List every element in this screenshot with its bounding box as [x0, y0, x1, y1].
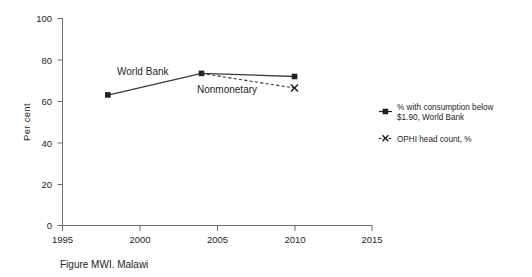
legend-marker-world-bank [379, 109, 392, 115]
y-tick-label-40: 40 [41, 138, 52, 149]
chart-legend: % with consumption below $1.90, World Ba… [379, 103, 494, 144]
y-axis-ticks [58, 19, 63, 226]
y-tick-label-80: 80 [41, 55, 52, 66]
x-tick-label-2005: 2005 [207, 234, 228, 245]
x-tick-label-2000: 2000 [129, 234, 150, 245]
y-tick-label-20: 20 [41, 179, 52, 190]
y-tick-label-100: 100 [36, 13, 52, 24]
x-tick-label-2015: 2015 [361, 234, 382, 245]
x-tick-label-1995: 1995 [52, 234, 73, 245]
figure-caption: Figure MWI. Malawi [60, 259, 148, 270]
y-tick-label-0: 0 [47, 220, 52, 231]
series-markers-ophi [291, 85, 298, 92]
y-tick-label-60: 60 [41, 96, 52, 107]
legend-label-world-bank-line2: $1.90, World Bank [397, 113, 465, 122]
legend-label-world-bank-line1: % with consumption below [397, 103, 494, 112]
x-axis-ticks [63, 226, 373, 232]
line-chart: 100 80 60 40 20 0 Per cent 1995 2000 200… [0, 0, 532, 277]
legend-label-ophi: OPHI head count, % [397, 135, 472, 144]
figure-container: 100 80 60 40 20 0 Per cent 1995 2000 200… [0, 0, 532, 277]
annotation-nonmonetary: Nonmonetary [197, 84, 257, 95]
x-tick-label-2010: 2010 [284, 234, 305, 245]
annotation-world-bank: World Bank [117, 66, 170, 77]
y-axis-title: Per cent [21, 103, 32, 141]
legend-marker-ophi [379, 135, 392, 141]
